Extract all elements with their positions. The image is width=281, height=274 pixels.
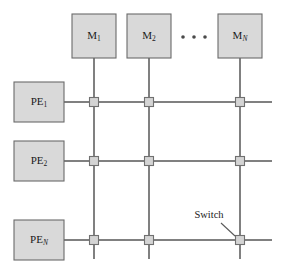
switch-annotation-label: Switch xyxy=(194,209,224,220)
ellipsis-dot-3 xyxy=(203,35,207,39)
switch-r2-c1[interactable] xyxy=(90,157,99,166)
ellipsis-dot-2 xyxy=(192,35,196,39)
switch-leader-line xyxy=(221,223,235,236)
switch-r1-c1[interactable] xyxy=(90,98,99,107)
switch-r3-c3[interactable] xyxy=(236,236,245,245)
crossbar-network-diagram: M1M2MN PE1PE2PEN Switch xyxy=(0,0,281,274)
processing-elements-layer: PE1PE2PEN xyxy=(14,82,64,260)
switch-r3-c2[interactable] xyxy=(145,236,154,245)
memory-ellipsis-layer xyxy=(181,35,207,39)
switch-r2-c3[interactable] xyxy=(236,157,245,166)
switch-r2-c2[interactable] xyxy=(145,157,154,166)
switch-annotation-layer: Switch xyxy=(194,209,235,236)
switch-nodes-layer xyxy=(90,98,245,245)
switch-r1-c3[interactable] xyxy=(236,98,245,107)
switch-r1-c2[interactable] xyxy=(145,98,154,107)
memory-modules-layer: M1M2MN xyxy=(72,14,262,58)
crossbar-svg-canvas: M1M2MN PE1PE2PEN Switch xyxy=(0,0,281,274)
ellipsis-dot-1 xyxy=(181,35,185,39)
switch-r3-c1[interactable] xyxy=(90,236,99,245)
